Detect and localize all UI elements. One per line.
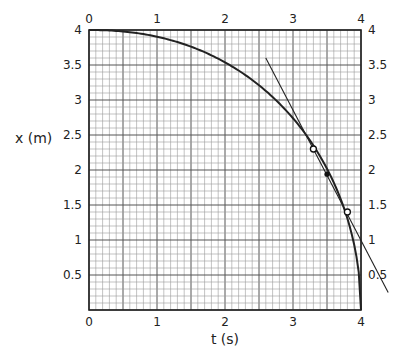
right-tick-4: 4 — [368, 23, 376, 37]
bottom-tick-4: 4 — [357, 315, 365, 329]
y-axis-label: x (m) — [15, 130, 52, 146]
top-tick-4: 4 — [357, 12, 365, 26]
bottom-tick-1: 1 — [153, 315, 161, 329]
right-tick-1.5: 1.5 — [368, 198, 387, 212]
top-tick-1: 1 — [153, 12, 161, 26]
right-tick-2: 2 — [368, 163, 376, 177]
x-axis-bottom-ticks: 0 1 2 3 4 — [85, 315, 365, 329]
left-tick-3.5: 3.5 — [63, 58, 82, 72]
right-tick-1: 1 — [368, 233, 376, 247]
grid — [89, 30, 361, 310]
right-tick-0.5: 0.5 — [368, 268, 387, 282]
y-axis-right-ticks: 4 3.5 3 2.5 2 1.5 1 0.5 — [368, 23, 387, 282]
open-circle-marker — [344, 209, 350, 215]
left-tick-2.5: 2.5 — [63, 128, 82, 142]
top-tick-3: 3 — [289, 12, 297, 26]
left-tick-1: 1 — [74, 233, 82, 247]
position-time-chart: 0 1 2 3 4 0 1 2 3 4 4 3.5 3 2.5 2 1.5 1 … — [0, 0, 401, 357]
right-tick-2.5: 2.5 — [368, 128, 387, 142]
left-tick-3: 3 — [74, 93, 82, 107]
y-axis-left-ticks: 4 3.5 3 2.5 2 1.5 1 0.5 — [63, 23, 82, 282]
x-axis-label: t (s) — [211, 331, 239, 347]
left-tick-4: 4 — [74, 23, 82, 37]
top-tick-2: 2 — [221, 12, 229, 26]
open-circle-marker — [310, 146, 316, 152]
bottom-tick-3: 3 — [289, 315, 297, 329]
filled-dot-marker — [324, 172, 329, 177]
x-axis-top-ticks: 0 1 2 3 4 — [85, 12, 365, 26]
left-tick-0.5: 0.5 — [63, 268, 82, 282]
bottom-tick-0: 0 — [85, 315, 93, 329]
right-tick-3: 3 — [368, 93, 376, 107]
left-tick-2: 2 — [74, 163, 82, 177]
right-tick-3.5: 3.5 — [368, 58, 387, 72]
top-tick-0: 0 — [85, 12, 93, 26]
bottom-tick-2: 2 — [221, 315, 229, 329]
left-tick-1.5: 1.5 — [63, 198, 82, 212]
